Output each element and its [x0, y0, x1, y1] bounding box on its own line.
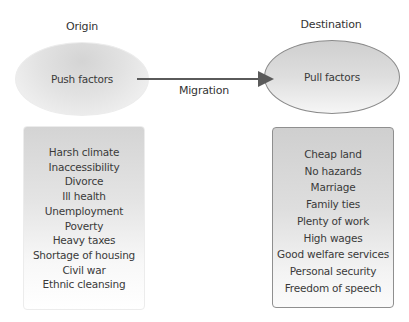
- push-factors-list: Harsh climate Inaccessibility Divorce Il…: [23, 126, 145, 310]
- push-factor-item: Ill health: [62, 189, 106, 204]
- pull-factor-item: Cheap land: [304, 146, 362, 163]
- push-factor-item: Civil war: [62, 263, 105, 278]
- pull-factors-node: Pull factors: [264, 40, 400, 114]
- pull-factor-item: Good welfare services: [277, 246, 389, 263]
- pull-factor-item: Family ties: [306, 196, 360, 213]
- push-factors-node-label: Push factors: [51, 73, 113, 85]
- push-factor-item: Unemployment: [45, 204, 123, 219]
- pull-factor-item: Personal security: [290, 263, 377, 280]
- pull-factor-item: Plenty of work: [297, 213, 369, 230]
- push-factors-node: Push factors: [15, 42, 149, 116]
- origin-label: Origin: [66, 20, 98, 33]
- push-factor-item: Inaccessibility: [49, 160, 120, 175]
- push-factor-item: Heavy taxes: [53, 233, 116, 248]
- pull-factor-item: No hazards: [305, 163, 362, 180]
- pull-factor-item: Marriage: [311, 179, 356, 196]
- pull-factor-item: High wages: [303, 230, 362, 247]
- migration-label: Migration: [179, 84, 229, 97]
- push-factor-item: Divorce: [65, 174, 104, 189]
- push-factor-item: Shortage of housing: [33, 248, 135, 263]
- pull-factors-node-label: Pull factors: [304, 71, 360, 83]
- pull-factors-list: Cheap land No hazards Marriage Family ti…: [272, 127, 394, 308]
- push-factor-item: Ethnic cleansing: [43, 277, 126, 292]
- destination-label: Destination: [301, 18, 362, 31]
- pull-factor-item: Freedom of speech: [285, 280, 381, 297]
- push-factor-item: Poverty: [65, 219, 103, 234]
- push-factor-item: Harsh climate: [49, 145, 119, 160]
